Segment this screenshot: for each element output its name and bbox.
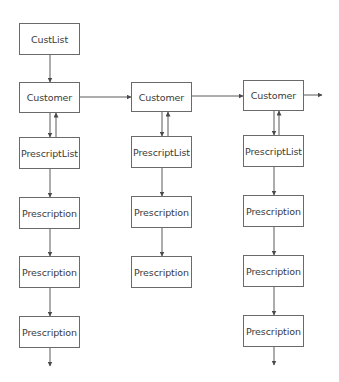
node-label: Prescription	[134, 267, 189, 278]
node-label: Prescription	[246, 326, 301, 337]
node-prescription-3a: Prescription	[243, 195, 304, 227]
node-label: Prescription	[22, 327, 77, 338]
node-prescription-1b: Prescription	[19, 256, 80, 288]
node-prescription-2a: Prescription	[131, 196, 192, 228]
node-prescription-1c: Prescription	[19, 316, 80, 348]
node-customer-2: Customer	[131, 82, 192, 112]
node-label: Customer	[139, 92, 184, 103]
node-prescription-3b: Prescription	[243, 255, 304, 287]
diagram-canvas: CustList Customer Customer Customer Pres…	[0, 0, 339, 382]
node-prescription-3c: Prescription	[243, 315, 304, 347]
node-label: Customer	[27, 92, 72, 103]
node-prescriptlist-3: PrescriptList	[243, 135, 304, 167]
node-label: CustList	[31, 34, 68, 45]
node-custlist: CustList	[19, 23, 80, 55]
node-label: Customer	[251, 90, 296, 101]
node-label: PrescriptList	[133, 147, 190, 158]
node-label: Prescription	[22, 208, 77, 219]
node-label: Prescription	[246, 206, 301, 217]
node-label: Prescription	[134, 207, 189, 218]
node-label: PrescriptList	[21, 148, 78, 159]
node-label: Prescription	[246, 266, 301, 277]
node-customer-1: Customer	[19, 82, 80, 113]
node-prescription-1a: Prescription	[19, 197, 80, 229]
node-prescription-2b: Prescription	[131, 256, 192, 288]
node-label: Prescription	[22, 267, 77, 278]
node-customer-3: Customer	[243, 80, 304, 111]
node-prescriptlist-1: PrescriptList	[19, 137, 80, 169]
node-prescriptlist-2: PrescriptList	[131, 136, 192, 168]
node-label: PrescriptList	[245, 146, 302, 157]
